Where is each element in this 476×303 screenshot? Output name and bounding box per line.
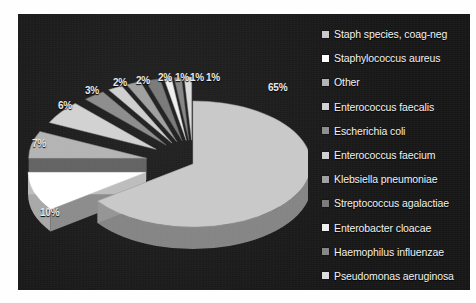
pie-chart: 65%10%7%6%3%2%2%2%1%1%1%: [18, 14, 308, 290]
pie-percent-label: 1%: [190, 72, 204, 83]
legend-swatch-icon: [322, 79, 329, 86]
legend-item[interactable]: Staphylococcus aureus: [322, 46, 470, 70]
legend-item[interactable]: Escherichia coli: [322, 119, 470, 143]
legend-swatch-icon: [322, 248, 329, 255]
legend-item[interactable]: Haemophilus influenzae: [322, 240, 470, 264]
legend-item-label: Other: [334, 76, 360, 88]
chart-panel: 65%10%7%6%3%2%2%2%1%1%1% Staph species, …: [18, 14, 470, 290]
pie-percent-label: 2%: [158, 72, 172, 83]
legend-swatch-icon: [322, 224, 329, 231]
legend-item[interactable]: Staph species, coag-neg: [322, 22, 470, 46]
pie-percent-label: 2%: [113, 77, 127, 88]
legend-item-label: Enterococcus faecium: [334, 149, 435, 161]
chart-screenshot: 65%10%7%6%3%2%2%2%1%1%1% Staph species, …: [0, 0, 476, 303]
pie-percent-label: 7%: [32, 138, 46, 149]
legend-swatch-icon: [322, 31, 329, 38]
legend-swatch-icon: [322, 176, 329, 183]
pie-percent-label: 65%: [268, 82, 287, 93]
legend-item-label: Staph species, coag-neg: [334, 28, 447, 40]
legend-item[interactable]: Enterococcus faecalis: [322, 95, 470, 119]
legend-item[interactable]: Other: [322, 70, 470, 94]
legend-item-label: Enterobacter cloacae: [334, 222, 431, 234]
legend-swatch-icon: [322, 152, 329, 159]
chart-legend: Staph species, coag-negStaphylococcus au…: [322, 22, 470, 288]
legend-item[interactable]: Streptococcus agalactiae: [322, 191, 470, 215]
legend-swatch-icon: [322, 103, 329, 110]
legend-item-label: Klebsiella pneumoniae: [334, 173, 438, 185]
pie-percent-label: 1%: [175, 72, 189, 83]
legend-item[interactable]: Enterobacter cloacae: [322, 216, 470, 240]
pie-percent-label: 1%: [206, 72, 220, 83]
legend-item[interactable]: Pseudomonas aeruginosa: [322, 264, 470, 288]
legend-item[interactable]: Enterococcus faecium: [322, 143, 470, 167]
legend-swatch-icon: [322, 272, 329, 279]
pie-percent-label: 6%: [58, 100, 72, 111]
legend-swatch-icon: [322, 55, 329, 62]
legend-item-label: Haemophilus influenzae: [334, 246, 444, 258]
legend-item-label: Pseudomonas aeruginosa: [334, 270, 454, 282]
legend-item-label: Streptococcus agalactiae: [334, 197, 449, 209]
legend-item-label: Enterococcus faecalis: [334, 101, 434, 113]
pie-percent-label: 10%: [40, 207, 59, 218]
pie-percent-label: 2%: [136, 75, 150, 86]
legend-item[interactable]: Klebsiella pneumoniae: [322, 167, 470, 191]
legend-swatch-icon: [322, 200, 329, 207]
pie-percent-label: 3%: [85, 85, 99, 96]
legend-item-label: Escherichia coli: [334, 125, 405, 137]
legend-item-label: Staphylococcus aureus: [334, 52, 440, 64]
legend-swatch-icon: [322, 127, 329, 134]
pie-svg: [18, 14, 308, 290]
